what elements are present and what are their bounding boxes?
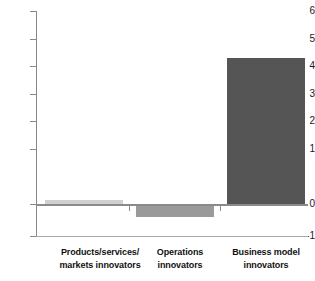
x-label-operations-innovators: Operations innovators <box>136 246 224 271</box>
y-tick-label-6: 6 <box>289 6 315 16</box>
x-label-business-model-innovators: Business model innovators <box>218 246 314 271</box>
y-tick-mark-2 <box>30 121 36 122</box>
y-tick-mark-5 <box>30 39 36 40</box>
y-tick-mark-4 <box>30 66 36 67</box>
x-tick-mark-1 <box>129 205 130 211</box>
x-tick-mark-2 <box>220 205 221 211</box>
x-label-line-2: innovators <box>136 259 224 272</box>
x-axis-labels: Products/services/ markets innovators Op… <box>36 246 308 280</box>
zero-baseline <box>36 204 308 206</box>
y-tick-mark-1 <box>30 149 36 150</box>
bar-chart: 6 5 4 3 2 1 0 -1 Products/services/ mark… <box>0 0 315 281</box>
bar-business-model-innovators <box>227 58 305 204</box>
y-tick-label-5: 5 <box>289 34 315 44</box>
y-tick-mark-3 <box>30 94 36 95</box>
y-tick-mark-6 <box>30 11 36 12</box>
x-label-line-1: Products/services/ <box>61 247 139 257</box>
x-label-line-1: Business model <box>232 247 300 257</box>
x-label-line-1: Operations <box>157 247 204 257</box>
axis-bottom-rule <box>36 236 308 237</box>
x-label-line-2: innovators <box>218 259 314 272</box>
bar-operations-innovators <box>136 206 214 217</box>
